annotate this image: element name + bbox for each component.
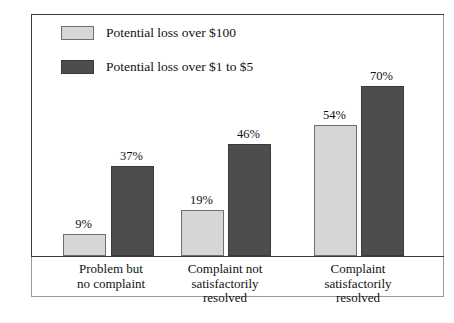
category-label-line: Problem but [56,262,166,277]
bar-series1-cat2[interactable] [361,86,404,256]
legend-label: Potential loss over $100 [106,24,236,42]
bar-series1-cat0[interactable] [111,166,154,256]
category-label-line: Complaint not [170,262,280,277]
category-label-line: resolved [303,291,413,306]
bar-series0-cat2[interactable] [314,125,357,256]
category-label-line: resolved [170,291,280,306]
category-label-2: Complaint satisfactorily resolved [303,262,413,306]
bar-series0-cat1[interactable] [181,210,224,256]
category-label-line: satisfactorily [303,277,413,292]
legend-label: Potential loss over $1 to $5 [106,58,253,76]
bar-value-series0-cat2: 54% [313,109,356,122]
bar-value-series1-cat1: 46% [227,128,270,141]
bar-series0-cat0[interactable] [63,234,106,256]
legend-swatch-icon [61,60,94,74]
y-axis: 100 90 80 70 60 50 40 30 20 10 0 [0,0,31,323]
category-label-line: no complaint [56,277,166,292]
category-label-line: satisfactorily [170,277,280,292]
legend-swatch-icon [61,26,94,40]
category-label-1: Complaint not satisfactorily resolved [170,262,280,306]
bar-value-series1-cat2: 70% [360,70,403,83]
category-label-0: Problem but no complaint [56,262,166,291]
bar-value-series0-cat1: 19% [180,194,223,207]
category-label-line: Complaint [303,262,413,277]
bar-series1-cat1[interactable] [228,144,271,256]
bar-value-series1-cat0: 37% [110,150,153,163]
bar-value-series0-cat0: 9% [62,218,105,231]
